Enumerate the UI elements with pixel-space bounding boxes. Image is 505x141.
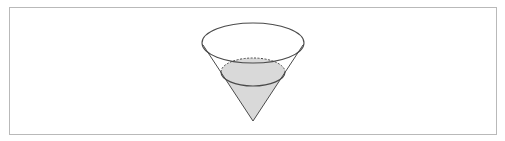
cone-rim (202, 23, 304, 63)
liquid (221, 58, 285, 121)
cone-diagram (0, 0, 505, 141)
